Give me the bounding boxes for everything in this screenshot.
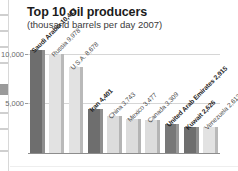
bar-side-shadow	[157, 120, 160, 153]
plot-area: 5,00010,000 Saudi Arabia 10,413Russia 9,…	[28, 34, 220, 154]
bar-side-shadow	[61, 54, 64, 153]
bar[interactable]	[126, 119, 141, 153]
bar-side-shadow	[80, 67, 83, 153]
bottom-divider	[10, 166, 238, 167]
left-pane-edge	[0, 0, 9, 171]
bar[interactable]	[69, 67, 84, 153]
chart-page: Top 10 oil producers (thousand barrels p…	[0, 0, 238, 171]
chart-title: Top 10 oil producers	[27, 5, 147, 19]
bar-side-shadow	[100, 109, 103, 153]
bar[interactable]	[203, 127, 218, 153]
bar[interactable]	[145, 120, 160, 153]
y-axis-tick-label: 10,000	[1, 49, 24, 58]
bar-side-shadow	[176, 124, 179, 153]
bar-side-shadow	[42, 50, 45, 153]
chart-subtitle: (thousand barrels per day 2007)	[27, 19, 162, 30]
bar[interactable]	[107, 116, 122, 153]
bar[interactable]	[184, 127, 199, 153]
bar-side-shadow	[119, 116, 122, 153]
bar-side-shadow	[215, 127, 218, 153]
bar[interactable]	[30, 50, 45, 153]
y-axis-tick-label: 5,000	[5, 99, 24, 108]
bar[interactable]	[88, 109, 103, 153]
bar-side-shadow	[196, 127, 199, 153]
axis-baseline	[28, 153, 220, 154]
bar-side-shadow	[138, 119, 141, 153]
bar[interactable]	[165, 124, 180, 153]
bar[interactable]	[49, 54, 64, 153]
